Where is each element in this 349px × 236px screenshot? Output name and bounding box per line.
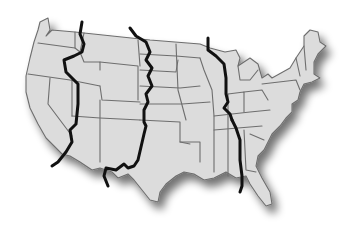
us-time-zone-map: [0, 0, 349, 236]
map-canvas: [0, 0, 349, 236]
